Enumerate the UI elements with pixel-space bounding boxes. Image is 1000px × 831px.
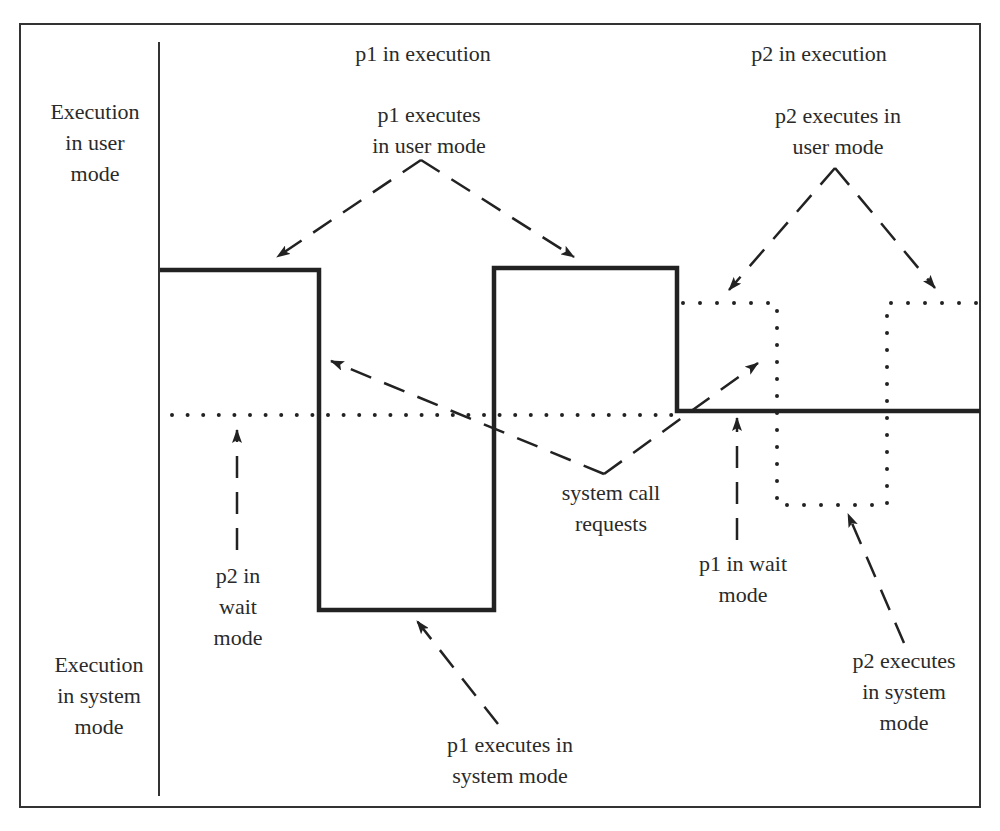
p1-system-mode-annotation: p1 executes in system mode	[447, 729, 573, 791]
label-line: p1 in wait	[699, 548, 787, 579]
p2-system-mode-annotation: p2 executes in system mode	[852, 645, 955, 738]
p1-user-mode-annotation: p1 executes in user mode	[372, 99, 486, 161]
p2-in-execution-header: p2 in execution	[751, 38, 887, 69]
p1-wait-mode-annotation: p1 in wait mode	[699, 548, 787, 610]
p2-user-mode-annotation: p2 executes in user mode	[775, 100, 901, 162]
label-line: p2 executes in	[775, 100, 901, 131]
label-line: p2 in	[214, 560, 263, 591]
label-line: p2 executes	[852, 645, 955, 676]
label-line: mode	[54, 711, 143, 742]
label-line: mode	[50, 158, 139, 189]
label-line: in system	[852, 676, 955, 707]
mode-switching-diagram: Execution in user mode Execution in syst…	[0, 0, 1000, 831]
label-line: in system	[54, 680, 143, 711]
system-call-requests-annotation: system call requests	[562, 477, 660, 539]
label-line: in user mode	[372, 130, 486, 161]
label-line: wait	[214, 591, 263, 622]
label-line: in user	[50, 127, 139, 158]
p2-mode-trace	[683, 303, 978, 505]
p1-mode-trace	[160, 268, 980, 610]
label-line: user mode	[775, 131, 901, 162]
label-line: mode	[852, 707, 955, 738]
system-mode-axis-label: Execution in system mode	[54, 649, 143, 742]
system-call-arrows	[331, 361, 758, 474]
label-line: requests	[562, 508, 660, 539]
p2-wait-mode-annotation: p2 in wait mode	[214, 560, 263, 653]
label-line: system call	[562, 477, 660, 508]
label-line: Execution	[54, 649, 143, 680]
label-line: p1 executes in	[447, 729, 573, 760]
label-line: p1 executes	[372, 99, 486, 130]
p2-user-mode-arrows	[729, 168, 935, 290]
p1-user-mode-arrows	[277, 160, 574, 257]
label-line: mode	[699, 579, 787, 610]
p1-in-execution-header: p1 in execution	[355, 38, 491, 69]
label-line: mode	[214, 622, 263, 653]
user-mode-axis-label: Execution in user mode	[50, 96, 139, 189]
label-line: system mode	[447, 760, 573, 791]
label-line: Execution	[50, 96, 139, 127]
p1-system-mode-arrow	[417, 621, 498, 724]
p2-system-mode-arrow	[848, 514, 904, 643]
